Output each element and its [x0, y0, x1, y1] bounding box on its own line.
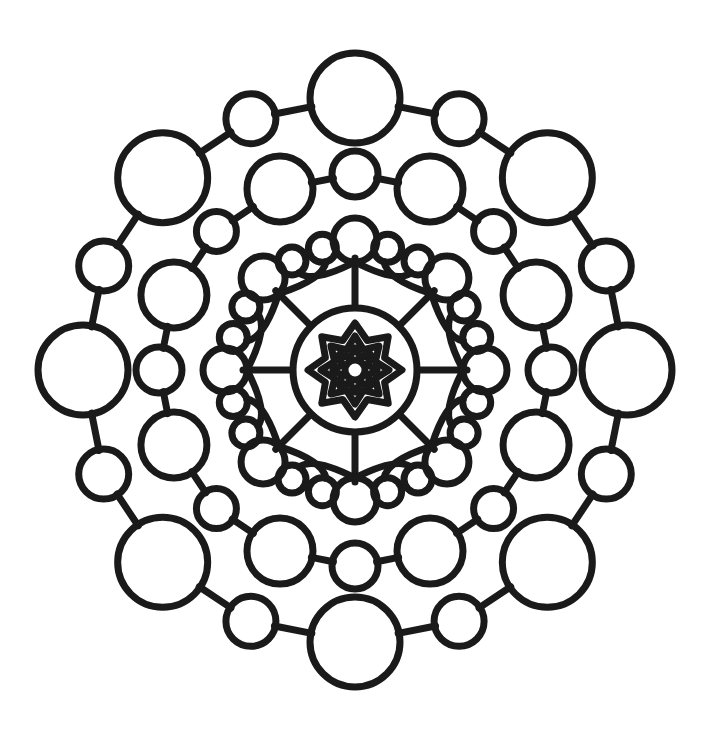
mandala-artwork: Mandala Coloring Page	[0, 0, 722, 733]
